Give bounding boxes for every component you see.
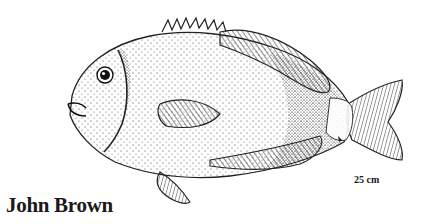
- artist-credit: John Brown: [6, 193, 113, 218]
- tail-fin: [347, 80, 403, 160]
- caudal-peduncle: [326, 98, 353, 141]
- dorsal-spines: [162, 18, 226, 32]
- scale-label: 25 cm: [354, 174, 379, 185]
- eye: [97, 67, 113, 83]
- fish-illustration: [0, 0, 421, 224]
